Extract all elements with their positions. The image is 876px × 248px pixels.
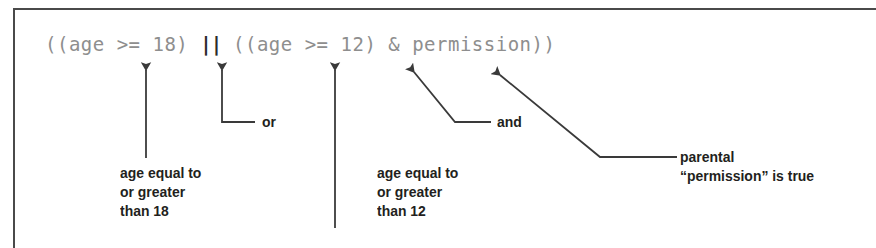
annotated-code-figure: ((age >= 18) || ((age >= 12) & permissio… xyxy=(0,0,876,248)
annotation-label-age18: age equal to or greater than 18 xyxy=(120,163,201,220)
annotation-label-and: and xyxy=(497,112,522,131)
annotation-label-permission: parental “permission” is true xyxy=(680,147,814,185)
leader-and xyxy=(414,72,491,122)
annotation-label-age12: age equal to or greater than 12 xyxy=(377,163,458,220)
leader-permission xyxy=(500,75,677,157)
annotation-label-or: or xyxy=(262,112,276,131)
leader-or xyxy=(222,70,255,122)
